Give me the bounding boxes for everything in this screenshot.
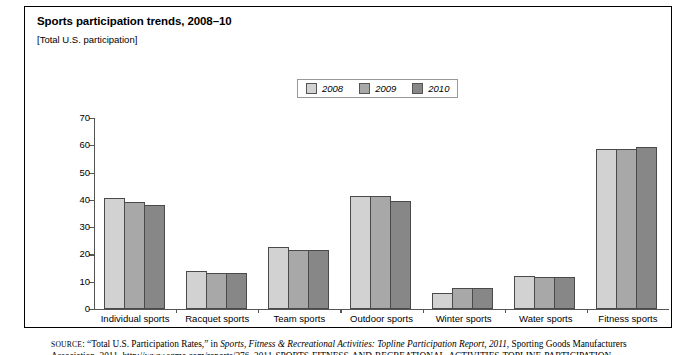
bar-group: Individual sports bbox=[94, 118, 176, 309]
bar-group-bars bbox=[104, 118, 164, 309]
legend-swatch-icon bbox=[412, 83, 423, 94]
legend-swatch-icon bbox=[359, 83, 370, 94]
chart-legend: 200820092010 bbox=[297, 79, 458, 98]
plot-area: Percent 010203040506070 Individual sport… bbox=[94, 118, 669, 309]
bar-group-bars bbox=[432, 118, 492, 309]
legend-label: 2008 bbox=[322, 83, 343, 94]
x-tick-label: Winter sports bbox=[436, 313, 492, 324]
bar-group-bars bbox=[268, 118, 328, 309]
bar bbox=[390, 201, 411, 309]
y-tick-label: 20 bbox=[79, 247, 90, 260]
bar bbox=[206, 273, 227, 309]
bar bbox=[350, 196, 371, 309]
bar-group: Team sports bbox=[258, 118, 340, 309]
bar bbox=[636, 147, 657, 309]
y-tick-label: 0 bbox=[85, 302, 90, 315]
bar-group-bars bbox=[186, 118, 246, 309]
page-title: Sports participation trends, 2008–10 bbox=[37, 15, 232, 27]
bar bbox=[514, 276, 535, 309]
x-tick-mark bbox=[587, 309, 588, 313]
bar bbox=[534, 277, 555, 309]
bar-group-bars bbox=[514, 118, 574, 309]
bar-group-bars bbox=[596, 118, 656, 309]
y-tick-label: 30 bbox=[79, 220, 90, 233]
x-tick-mark bbox=[340, 309, 341, 313]
bar bbox=[226, 273, 247, 309]
x-tick-mark bbox=[176, 309, 177, 313]
x-tick-label: Team sports bbox=[273, 313, 325, 324]
legend-label: 2009 bbox=[375, 83, 396, 94]
bar-groups: Individual sportsRacquet sportsTeam spor… bbox=[94, 118, 669, 309]
bar bbox=[554, 277, 575, 309]
bar bbox=[308, 250, 329, 309]
source-line-1: SOURCE: “Total U.S. Participation Rates,… bbox=[51, 339, 689, 351]
bar bbox=[472, 288, 493, 309]
bar-group: Winter sports bbox=[423, 118, 505, 309]
bar bbox=[186, 271, 207, 309]
x-tick-label: Outdoor sports bbox=[350, 313, 413, 324]
source-prefix: SOURCE bbox=[51, 340, 82, 349]
x-tick-label: Individual sports bbox=[101, 313, 170, 324]
y-tick-label: 40 bbox=[79, 193, 90, 206]
source-text-a: : “Total U.S. Participation Rates,” in bbox=[82, 339, 220, 349]
figure-panel: Sports participation trends, 2008–10 [To… bbox=[24, 6, 672, 328]
figure-subtitle: [Total U.S. participation] bbox=[37, 34, 137, 45]
legend-label: 2010 bbox=[428, 83, 449, 94]
bar-group: Water sports bbox=[505, 118, 587, 309]
bar bbox=[616, 149, 637, 309]
y-tick-label: 70 bbox=[79, 111, 90, 124]
x-tick-label: Racquet sports bbox=[185, 313, 249, 324]
source-note: SOURCE: “Total U.S. Participation Rates,… bbox=[51, 339, 689, 355]
source-publication: Sports, Fitness & Recreational Activitie… bbox=[220, 339, 507, 349]
legend-entry: 2010 bbox=[412, 83, 449, 94]
bar bbox=[596, 149, 617, 309]
y-tick-label: 60 bbox=[79, 138, 90, 151]
x-tick-mark bbox=[258, 309, 259, 313]
x-tick-label: Water sports bbox=[519, 313, 573, 324]
bar bbox=[104, 198, 125, 309]
bar bbox=[144, 205, 165, 309]
x-tick-mark bbox=[505, 309, 506, 313]
bar-group: Outdoor sports bbox=[340, 118, 422, 309]
bar bbox=[124, 202, 145, 310]
bar bbox=[432, 293, 453, 309]
legend-swatch-icon bbox=[306, 83, 317, 94]
y-tick-label: 50 bbox=[79, 166, 90, 179]
bar-group: Racquet sports bbox=[176, 118, 258, 309]
bar bbox=[288, 250, 309, 309]
bar bbox=[370, 196, 391, 309]
y-tick-label: 10 bbox=[79, 275, 90, 288]
source-text-b: , Sporting Goods Manufacturers bbox=[507, 339, 627, 349]
legend-entry: 2008 bbox=[306, 83, 343, 94]
legend-entry: 2009 bbox=[359, 83, 396, 94]
bar bbox=[268, 247, 289, 309]
x-tick-label: Fitness sports bbox=[598, 313, 657, 324]
bar bbox=[452, 288, 473, 309]
bar-group: Fitness sports bbox=[587, 118, 669, 309]
x-axis-line bbox=[94, 309, 669, 310]
bar-group-bars bbox=[350, 118, 410, 309]
x-tick-mark bbox=[423, 309, 424, 313]
source-line-2: Association, 2011, http://www.sgma.com/r… bbox=[51, 351, 689, 355]
